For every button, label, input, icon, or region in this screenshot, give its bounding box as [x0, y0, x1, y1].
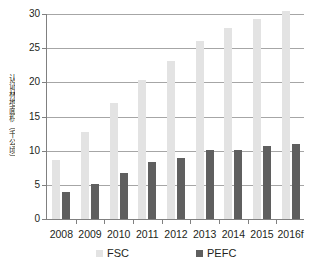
x-axis-tick-label: 2010	[104, 228, 133, 240]
y-axis-tick-mark	[42, 48, 46, 49]
y-axis-tick-mark	[42, 219, 46, 220]
x-axis-tick-label: 2013	[190, 228, 219, 240]
bar-pefc-2009	[91, 184, 99, 219]
x-axis-tick-mark	[76, 220, 77, 224]
bar-fsc-2008	[52, 160, 60, 219]
x-axis-tick-mark	[133, 220, 134, 224]
y-axis-tick-mark	[42, 14, 46, 15]
plot-area	[46, 14, 304, 220]
chart-legend: FSCPEFC	[0, 248, 311, 264]
bar-pefc-2011	[148, 162, 156, 219]
x-axis-tick-label: 2009	[76, 228, 105, 240]
x-axis-tick-label: 2016f	[276, 228, 305, 240]
legend-item-pefc[interactable]: PEFC	[196, 248, 236, 259]
bar-fsc-2011	[138, 80, 146, 219]
legend-label: PEFC	[207, 248, 236, 259]
bar-fsc-2016f	[282, 11, 290, 219]
y-axis-tick-label: 20	[16, 76, 40, 87]
bar-fsc-2013	[196, 41, 204, 219]
y-axis-tick-label: 25	[16, 42, 40, 53]
bar-fsc-2015	[253, 19, 261, 219]
gridline	[46, 82, 304, 83]
x-axis-tick-mark	[190, 220, 191, 224]
x-axis-tick-mark	[162, 220, 163, 224]
legend-label: FSC	[107, 248, 129, 259]
x-axis-tick-label: 2014	[219, 228, 248, 240]
bar-fsc-2014	[224, 28, 232, 219]
bar-fsc-2009	[81, 132, 89, 219]
legend-item-fsc[interactable]: FSC	[96, 248, 129, 259]
y-axis-tick-mark	[42, 151, 46, 152]
legend-swatch-icon	[196, 250, 203, 257]
bar-pefc-2010	[120, 173, 128, 219]
legend-swatch-icon	[96, 250, 103, 257]
bar-pefc-2008	[62, 192, 70, 219]
x-axis-tick-label: 2011	[133, 228, 162, 240]
x-axis-tick-label: 2012	[162, 228, 191, 240]
x-axis-tick-mark	[104, 220, 105, 224]
gridline	[46, 48, 304, 49]
x-axis-tick-mark	[219, 220, 220, 224]
x-axis-line	[46, 219, 304, 220]
y-axis-tick-mark	[42, 82, 46, 83]
bar-pefc-2016f	[292, 144, 300, 219]
y-axis-tick-label: 15	[16, 111, 40, 122]
y-axis-line	[46, 14, 47, 220]
x-axis-tick-label: 2008	[47, 228, 76, 240]
bar-fsc-2012	[167, 61, 175, 219]
gridline	[46, 117, 304, 118]
x-axis-tick-label: 2015	[248, 228, 277, 240]
bar-pefc-2012	[177, 158, 185, 220]
y-axis-tick-mark	[42, 117, 46, 118]
x-axis-tick-mark	[276, 220, 277, 224]
x-axis-tick-mark	[248, 220, 249, 224]
bar-pefc-2014	[234, 150, 242, 219]
y-axis-tick-label: 5	[16, 179, 40, 190]
bar-chart: 认证林地面积（千公顷） 051015202530 200820092010201…	[0, 0, 311, 269]
y-axis-tick-mark	[42, 185, 46, 186]
gridline	[46, 14, 304, 15]
y-axis-tick-label: 0	[16, 213, 40, 224]
y-axis-title: 认证林地面积（千公顷）	[1, 58, 15, 178]
bar-fsc-2010	[110, 103, 118, 219]
bar-pefc-2013	[206, 150, 214, 219]
y-axis-tick-label: 10	[16, 145, 40, 156]
bar-pefc-2015	[263, 146, 271, 219]
y-axis-tick-label: 30	[16, 8, 40, 19]
